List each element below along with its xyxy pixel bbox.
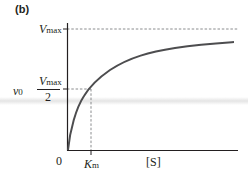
half-vmax-denominator: 2 bbox=[45, 91, 51, 103]
origin-label: 0 bbox=[56, 155, 62, 167]
saturation-curve bbox=[68, 42, 234, 150]
km-label: Km bbox=[84, 158, 99, 170]
half-vmax-numerator: Vmax bbox=[39, 75, 62, 87]
v0-label: v0 bbox=[13, 85, 23, 97]
vmax-label: Vmax bbox=[39, 23, 62, 35]
substrate-axis-label: [S] bbox=[146, 156, 161, 168]
michaelis-menten-plot bbox=[0, 0, 248, 180]
